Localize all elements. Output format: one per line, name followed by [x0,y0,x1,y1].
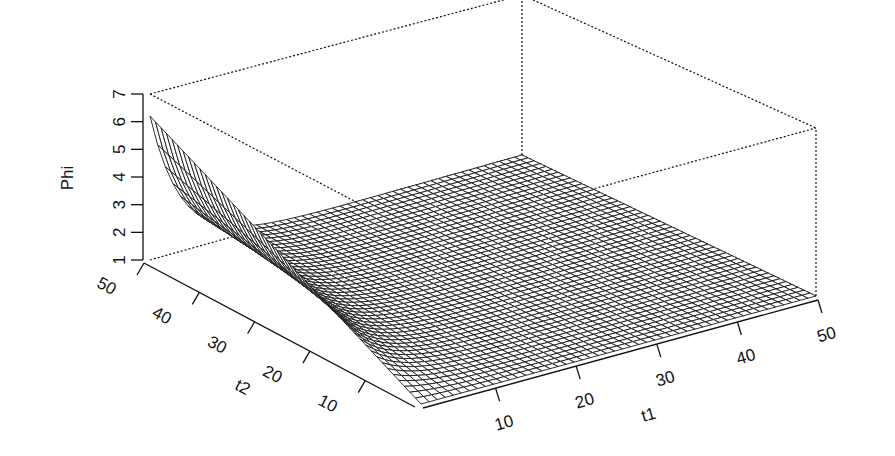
z-tick-label: 4 [110,172,129,181]
t2-axis-title: t2 [232,375,253,398]
wireframe-surface [150,116,816,404]
z-tick-label: 2 [110,228,129,237]
t1-tick-label: 40 [734,345,757,368]
t2-tick-label: 10 [315,391,341,417]
t2-tick-label: 50 [94,273,120,299]
z-tick-label: 6 [110,117,129,126]
t2-tick-label: 40 [149,303,175,329]
t1-tick-label: 20 [573,389,596,412]
z-tick-label: 7 [110,89,129,98]
z-tick-label: 5 [110,145,129,154]
t2-tick-label: 30 [204,332,230,358]
z-tick-label: 3 [110,200,129,209]
t1-axis-title: t1 [639,404,658,426]
t1-tick-label: 50 [815,323,838,346]
t1-tick-label: 10 [492,411,515,434]
surface-plot: 123456710203040501020304050 Phi t2 t1 [0,0,895,456]
z-axis-title: Phi [58,166,77,191]
z-tick-label: 1 [110,255,129,264]
t2-tick-label: 20 [260,361,286,387]
t1-tick-label: 30 [654,367,677,390]
